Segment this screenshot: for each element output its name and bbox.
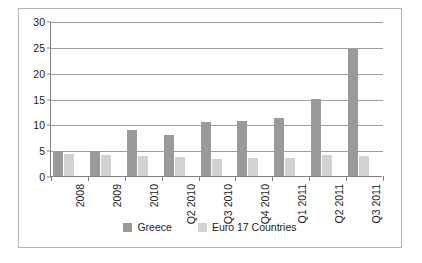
x-tick-mark [346, 176, 347, 181]
bar [237, 121, 247, 176]
bar [348, 49, 358, 176]
legend-label: Greece [137, 221, 171, 233]
bar [359, 156, 369, 176]
bar [311, 99, 321, 177]
x-tick-label: Q3 2010 [222, 184, 234, 224]
chart-frame: 051015202530 200820092010Q2 2010Q3 2010Q… [18, 8, 402, 248]
legend-swatch [198, 223, 207, 232]
bar [248, 158, 258, 176]
y-tick-label: 30 [15, 16, 45, 28]
legend-label: Euro 17 Countries [212, 221, 297, 233]
bar [90, 151, 100, 176]
x-tick-mark [162, 176, 163, 181]
bar [53, 151, 63, 176]
y-tick-label: 5 [15, 145, 45, 157]
y-tick-label: 25 [15, 42, 45, 54]
bar-group [51, 22, 88, 176]
x-tick-mark [199, 176, 200, 181]
bar [201, 122, 211, 176]
x-tick-mark [125, 176, 126, 181]
bar-group [272, 22, 309, 176]
legend-item: Euro 17 Countries [198, 221, 297, 233]
plot-area: 051015202530 200820092010Q2 2010Q3 2010Q… [50, 22, 382, 177]
y-tick-label: 0 [15, 171, 45, 183]
x-tick-mark [235, 176, 236, 181]
bar-group [309, 22, 346, 176]
bar [274, 118, 284, 176]
x-tick-label: 2008 [74, 184, 86, 207]
x-tick-label: Q1 2011 [296, 184, 308, 224]
x-tick-mark [88, 176, 89, 181]
bar [101, 155, 111, 176]
bar-group [199, 22, 236, 176]
bar [64, 154, 74, 176]
bar [285, 158, 295, 176]
x-tick-mark [309, 176, 310, 181]
bar-group [346, 22, 383, 176]
x-tick-label: Q4 2010 [259, 184, 271, 224]
y-tick-label: 20 [15, 68, 45, 80]
x-tick-label: Q3 2011 [370, 184, 382, 224]
x-tick-label: 2010 [148, 184, 160, 207]
x-tick-label: 2009 [111, 184, 123, 207]
bar-group [88, 22, 125, 176]
bar [138, 156, 148, 176]
bar-group [162, 22, 199, 176]
bar [212, 159, 222, 176]
bar-group [235, 22, 272, 176]
chart-legend: GreeceEuro 17 Countries [19, 221, 401, 233]
x-tick-mark [383, 176, 384, 181]
bar [164, 135, 174, 176]
legend-swatch [123, 223, 132, 232]
x-tick-label: Q2 2010 [185, 184, 197, 224]
bar [175, 157, 185, 176]
legend-item: Greece [123, 221, 171, 233]
bar [127, 130, 137, 177]
x-tick-mark [272, 176, 273, 181]
bar-group [125, 22, 162, 176]
y-tick-label: 10 [15, 119, 45, 131]
bar [322, 155, 332, 176]
y-tick-label: 15 [15, 94, 45, 106]
x-tick-mark [51, 176, 52, 181]
plot-inner: 051015202530 200820092010Q2 2010Q3 2010Q… [50, 22, 382, 177]
x-tick-label: Q2 2011 [333, 184, 345, 224]
